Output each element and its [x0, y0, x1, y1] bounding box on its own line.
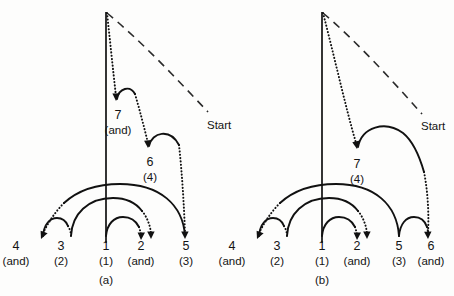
panel-a-arrowhead-2-outer: [147, 232, 154, 240]
panel-b-start-dashed-line: [323, 13, 422, 114]
panel-b-node-2-sub: (and): [344, 255, 371, 267]
panel-b-node-labels: 4 (and) 3 (2) 1 (1) 2 (and) 5 (3) 6 (and…: [219, 157, 445, 267]
panel-b-node-3-sub: (2): [270, 255, 284, 267]
panel-b-start-label: Start: [421, 120, 446, 132]
panel-a-start-dashed-line: [107, 13, 208, 112]
panel-a-node-4-sub: (and): [3, 255, 30, 267]
panel-a-caption: (a): [99, 274, 113, 286]
panel-b-solid-arc-1-small: [322, 217, 355, 236]
panel-b-node-4-sub: (and): [219, 255, 246, 267]
panel-a-node-3-sub: (2): [54, 255, 68, 267]
panel-b: 4 (and) 3 (2) 1 (1) 2 (and) 5 (3) 6 (and…: [219, 12, 447, 286]
panel-a-node-3-number: 3: [58, 239, 65, 253]
panel-a-node-5-number: 5: [183, 239, 190, 253]
panel-b-node-6-number: 6: [428, 239, 435, 253]
panel-b-node-1-number: 1: [319, 239, 326, 253]
panel-b-node-6-sub: (and): [418, 255, 445, 267]
panel-b-arrowhead-2-outer: [363, 232, 370, 240]
panel-a-node-7-sub: (and): [105, 124, 132, 136]
panel-b-node-5-sub: (3): [392, 255, 406, 267]
panel-a-node-2-number: 2: [138, 239, 145, 253]
panel-a-node-2-sub: (and): [128, 255, 155, 267]
panel-a-solid-arc-1-small: [106, 217, 139, 236]
panel-b-solid-arc-7: [358, 126, 424, 172]
panel-b-node-7-number: 7: [354, 157, 361, 171]
panel-a-solid-arc-7: [117, 89, 135, 99]
panel-a-dotted-3-to-2: [142, 211, 151, 233]
parse-tree-diagram: 4 (and) 3 (2) 1 (1) 2 (and) 5 (3) 7 (and…: [0, 0, 454, 296]
panel-b-node-1-sub: (1): [315, 255, 329, 267]
panel-b-node-2-number: 2: [354, 239, 361, 253]
panel-b-node-4-number: 4: [229, 239, 236, 253]
panel-a-node-4-number: 4: [13, 239, 20, 253]
panel-a-node-6-sub: (4): [143, 171, 157, 183]
panel-a-dotted-7-to-6: [135, 94, 148, 143]
panel-a-node-1-sub: (1): [99, 255, 113, 267]
panel-b-dotted-3-to-2: [358, 211, 367, 233]
panel-b-caption: (b): [315, 274, 329, 286]
panel-a-node-labels: 4 (and) 3 (2) 1 (1) 2 (and) 5 (3) 7 (and…: [3, 108, 194, 267]
panel-b-dotted-apex-to-7: [323, 13, 356, 143]
panel-b-node-3-number: 3: [274, 239, 281, 253]
panel-a-node-6-number: 6: [147, 155, 154, 169]
panel-a-dotted-apex-to-7: [107, 13, 116, 96]
panel-a-node-5-sub: (3): [179, 255, 193, 267]
panel-b-node-7-sub: (4): [350, 173, 364, 185]
panel-a-node-7-number: 7: [115, 108, 122, 122]
panel-b-node-5-number: 5: [396, 239, 403, 253]
panel-a: 4 (and) 3 (2) 1 (1) 2 (and) 5 (3) 7 (and…: [3, 12, 233, 286]
panel-a-node-1-number: 1: [103, 239, 110, 253]
panel-b-solid-arc-5-small: [399, 217, 427, 236]
panel-a-solid-arc-6: [149, 134, 179, 146]
figure-root: 4 (and) 3 (2) 1 (1) 2 (and) 5 (3) 7 (and…: [0, 0, 454, 296]
panel-a-start-label: Start: [207, 119, 232, 131]
